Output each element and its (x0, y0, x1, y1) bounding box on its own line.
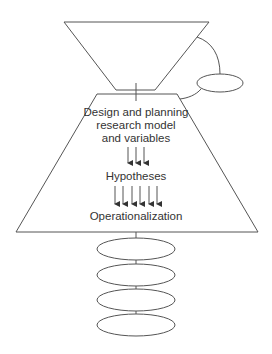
top-funnel (64, 22, 209, 90)
hypotheses-label: Hypotheses (106, 170, 167, 182)
side-to-block-connector (180, 89, 201, 99)
side-ellipse (197, 74, 243, 92)
design-label-line-2: research model (96, 119, 175, 131)
stack-ellipse-1 (97, 238, 175, 260)
operationalization-label: Operationalization (90, 210, 183, 222)
research-process-diagram: Design and planning research model and v… (0, 0, 272, 354)
stack-ellipse-3 (97, 289, 175, 311)
design-label-line-1: Design and planning (84, 106, 189, 118)
stack-ellipse-2 (97, 264, 175, 286)
stack-ellipse-4 (97, 314, 175, 336)
stacked-ellipses (97, 232, 175, 336)
design-label-line-3: and variables (102, 132, 171, 144)
funnel-to-side-connector (197, 37, 220, 74)
